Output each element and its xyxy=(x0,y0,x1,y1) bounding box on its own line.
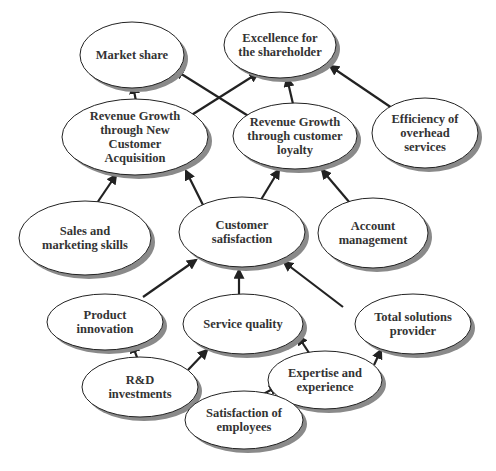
node-label-rev-new: Revenue Growth through New Customer Acqu… xyxy=(78,107,191,168)
arrow-product-to-cust-sat xyxy=(143,260,196,297)
node-label-rd: R&D investments xyxy=(95,363,185,411)
node-label-rev-loyalty: Revenue Growth through customer loyalty xyxy=(247,110,343,163)
node-label-employees: Satisfaction of employees xyxy=(198,397,289,443)
node-label-overhead: Efficiency of overhead services xyxy=(384,105,466,161)
node-label-product: Product innovation xyxy=(60,300,150,345)
arrow-overhead-to-excellence xyxy=(330,66,392,108)
arrow-total-to-cust-sat xyxy=(284,262,343,307)
node-label-market-share: Market share xyxy=(92,29,173,82)
arrow-sales-to-rev-new xyxy=(97,175,116,203)
node-label-account: Account management xyxy=(330,205,415,261)
node-label-excellence: Excellence for the shareholder xyxy=(237,19,324,72)
node-label-total: Total solutions provider xyxy=(368,300,458,348)
node-label-sales: Sales and marketing skills xyxy=(34,208,136,267)
arrow-cust-sat-to-rev-loyalty xyxy=(259,170,279,203)
node-label-cust-sat: Customer safisfaction xyxy=(193,204,291,260)
arrow-expertise-to-total xyxy=(374,350,381,365)
arrow-account-to-rev-loyalty xyxy=(322,170,350,203)
node-label-service: Service quality xyxy=(197,300,290,348)
arrow-rd-to-service xyxy=(188,350,207,370)
node-label-expertise: Expertise and experience xyxy=(281,357,369,403)
